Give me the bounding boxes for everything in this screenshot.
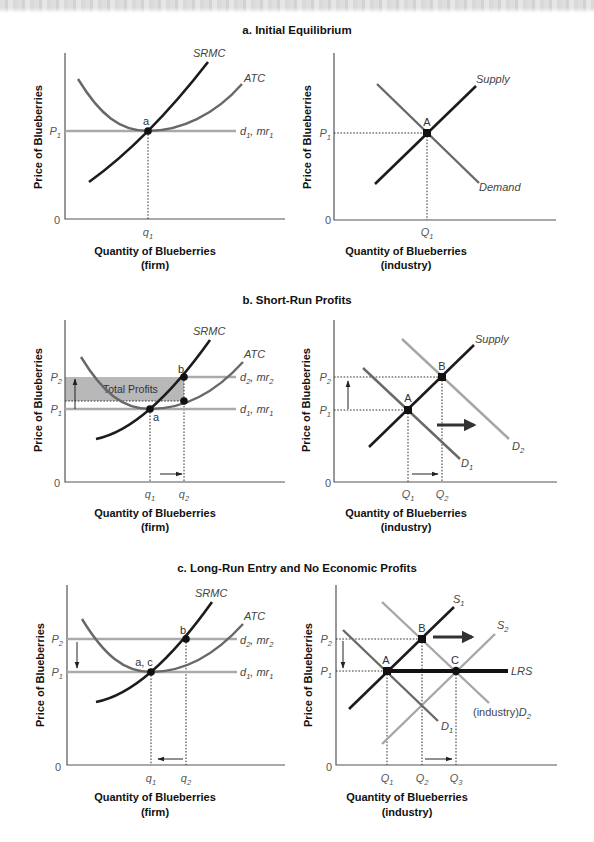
point-C	[452, 667, 460, 675]
x-tick-Q1: Q1	[381, 772, 394, 787]
chart-c-industry: Price of Blueberries B A C S1 S2 LRS (in…	[302, 585, 557, 818]
x-axis-label: Quantity of Blueberries	[94, 791, 216, 803]
y-tick-p1: P1	[51, 666, 63, 681]
point-B	[418, 635, 426, 643]
d2-mr2-label: d2, mr2	[240, 634, 274, 649]
x-tick-Q1: Q1	[402, 488, 415, 503]
y-axis-label: Price of Blueberries	[32, 85, 44, 189]
x-axis-sublabel: (industry)	[382, 806, 433, 818]
y-axis-label: Price of Blueberries	[302, 623, 314, 727]
point-B-label: B	[438, 360, 445, 372]
s1-label: S1	[453, 593, 465, 608]
d1-mr1-label: d1, mr1	[240, 125, 273, 140]
panel-a-title: a. Initial Equilibrium	[242, 24, 351, 36]
point-atc-q2	[180, 397, 188, 405]
point-A-label: A	[404, 392, 412, 404]
point-a-label: a	[143, 115, 150, 127]
figure: a. Initial Equilibrium Price of Blueberr…	[0, 0, 594, 842]
atc-curve	[82, 619, 243, 672]
x-axis-label: Quantity of Blueberries	[345, 245, 467, 257]
supply-curve	[369, 345, 474, 447]
point-a-label: a	[153, 411, 160, 423]
y-tick-p1: P1	[50, 403, 62, 418]
point-b	[182, 635, 190, 643]
panel-c-title: c. Long-Run Entry and No Economic Profit…	[177, 562, 417, 574]
y-axis-label: Price of Blueberries	[34, 623, 46, 727]
lrs-label: LRS	[511, 665, 533, 677]
x-axis-label: Quantity of Blueberries	[94, 507, 216, 519]
d1-mr1-label: d1, mr1	[240, 403, 273, 418]
point-A-label: A	[423, 116, 431, 128]
point-a-c-label: a, c	[135, 656, 153, 668]
x-tick-Q3: Q3	[450, 772, 464, 787]
atc-curve	[78, 79, 242, 131]
point-C-label: C	[451, 654, 459, 666]
point-A	[383, 667, 391, 675]
origin-label: 0	[325, 477, 331, 489]
atc-label: ATC	[243, 348, 265, 360]
point-A-label: A	[382, 654, 390, 666]
x-axis-sublabel: (firm)	[141, 806, 169, 818]
y-tick-p2: P2	[320, 633, 332, 648]
y-tick-p2: P2	[51, 633, 63, 648]
d1-mr1-label: d1, mr1	[240, 666, 273, 681]
x-tick-q1: q1	[143, 226, 153, 241]
x-axis-label: Quantity of Blueberries	[94, 245, 216, 257]
origin-label: 0	[326, 761, 332, 773]
srmc-label: SRMC	[193, 47, 225, 59]
x-tick-q1: q1	[145, 488, 155, 503]
srmc-curve	[96, 602, 212, 702]
x-tick-Q2: Q2	[416, 772, 430, 787]
supply-s1-curve	[349, 607, 454, 709]
chart-b-industry: Price of Blueberries B A Supply D2 D1 P2…	[300, 320, 557, 533]
x-axis-sublabel: (industry)	[381, 521, 432, 533]
y-tick-p2: P2	[319, 371, 331, 386]
x-tick-Q2: Q2	[436, 488, 450, 503]
y-axis-label: Price of Blueberries	[32, 348, 44, 452]
atc-label: ATC	[243, 610, 265, 622]
chart-c-firm: Price of Blueberries b a, c SRMC ATC d2,…	[34, 585, 285, 818]
x-axis-sublabel: (firm)	[141, 521, 169, 533]
supply-label: Supply	[475, 333, 510, 345]
point-a	[144, 127, 152, 135]
x-tick-q2: q2	[179, 488, 190, 503]
y-axis-label: Price of Blueberries	[300, 348, 312, 452]
y-tick-p1: P1	[320, 665, 332, 680]
point-B	[438, 373, 446, 381]
d1-label: D1	[441, 720, 453, 735]
x-axis-sublabel: (industry)	[381, 259, 432, 271]
demand-d2-curve	[382, 602, 489, 703]
atc-label: ATC	[243, 72, 265, 84]
demand-label: Demand	[479, 181, 521, 193]
d2-mr2-label: d2, mr2	[240, 371, 274, 386]
origin-label: 0	[54, 214, 60, 226]
origin-label: 0	[54, 477, 60, 489]
point-A	[423, 129, 431, 137]
origin-label: 0	[325, 214, 331, 226]
y-tick-p1: P1	[319, 404, 331, 419]
panel-b-title: b. Short-Run Profits	[242, 294, 351, 306]
point-A	[404, 406, 412, 414]
d2-label: D2	[512, 440, 525, 455]
d1-label: D1	[461, 457, 473, 472]
origin-label: 0	[55, 761, 61, 773]
y-axis-label: Price of Blueberries	[301, 85, 313, 189]
x-tick-Q1: Q1	[421, 226, 434, 241]
point-B-label: B	[418, 622, 425, 634]
point-b-label: b	[180, 624, 186, 636]
y-tick-p1: P1	[49, 125, 61, 140]
point-a-c	[147, 668, 155, 676]
y-tick-p1: P1	[319, 127, 331, 142]
srmc-label: SRMC	[193, 325, 225, 337]
chart-a-firm: Price of Blueberries a SRMC ATC d1, mr1 …	[32, 47, 285, 271]
d2-label: (industry)D2	[473, 706, 532, 721]
chart-b-firm: Price of Blueberries Total Profits b a S…	[32, 320, 285, 533]
supply-s2-curve	[382, 634, 495, 744]
axes	[334, 53, 556, 220]
srmc-label: SRMC	[195, 587, 227, 599]
x-axis-sublabel: (firm)	[141, 259, 169, 271]
x-tick-q2: q2	[181, 772, 192, 787]
y-tick-p2: P2	[50, 371, 62, 386]
x-tick-q1: q1	[146, 772, 156, 787]
x-axis-label: Quantity of Blueberries	[345, 507, 467, 519]
